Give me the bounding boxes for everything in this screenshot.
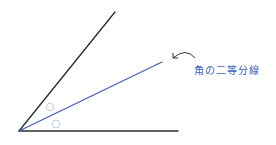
bisector-line	[19, 62, 162, 131]
angle-mark-lower-icon	[52, 120, 60, 128]
upper-ray	[19, 12, 115, 131]
bisector-label: 角の二等分線	[194, 62, 260, 77]
angle-mark-upper-icon	[46, 103, 54, 111]
curved-arrow-icon	[173, 53, 195, 59]
